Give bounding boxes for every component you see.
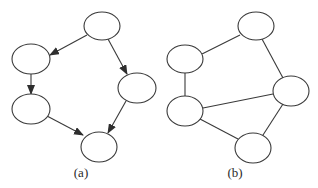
directed-graph-panel: (a) xyxy=(12,12,156,180)
graph-node xyxy=(235,133,271,163)
undirected-edge xyxy=(262,39,283,78)
panel-caption: (b) xyxy=(227,165,242,180)
graph-node xyxy=(167,45,203,73)
graph-node xyxy=(167,96,203,126)
graph-figure: (a) (b) xyxy=(0,0,318,188)
graph-node xyxy=(81,132,117,162)
undirected-edge xyxy=(200,119,238,139)
graph-node xyxy=(118,73,156,103)
graph-node xyxy=(84,12,120,40)
graph-node xyxy=(12,94,50,124)
undirected-graph-panel: (b) xyxy=(167,12,309,180)
graph-node xyxy=(238,12,274,40)
directed-edge xyxy=(108,39,127,74)
undirected-edge xyxy=(203,94,273,108)
undirected-edge xyxy=(202,35,240,54)
directed-edge xyxy=(108,101,126,133)
directed-edge xyxy=(47,116,83,135)
undirected-edge xyxy=(263,104,283,135)
graph-node xyxy=(273,76,309,106)
graph-node xyxy=(12,44,50,74)
panel-caption: (a) xyxy=(74,165,88,180)
directed-edge xyxy=(50,35,87,55)
